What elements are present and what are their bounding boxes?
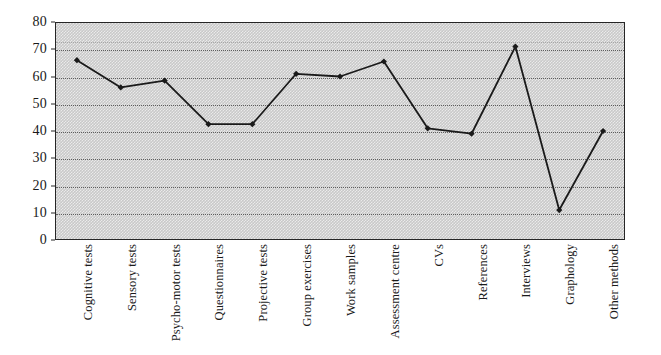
x-axis-tick-label: Psycho-motor tests (170, 244, 183, 341)
x-axis-tick-label: CVs (433, 244, 446, 267)
x-axis-tick-label-text: Work samples (345, 244, 358, 316)
y-axis-tick-label: 0 (40, 233, 47, 247)
line-chart: 01020304050607080 Cognitive testsSensory… (0, 0, 661, 355)
y-axis-tick-label: 50 (32, 97, 47, 111)
x-axis-tick-label: Work samples (345, 244, 358, 316)
x-axis-tick-label-text: Cognitive tests (82, 244, 95, 320)
data-point-marker (512, 43, 518, 49)
x-axis-tick-label: Projective tests (257, 244, 270, 322)
x-axis-tick-label: Other methods (608, 244, 621, 319)
x-axis-tick-label-text: Sensory tests (126, 244, 139, 311)
x-axis-tick-label: Cognitive tests (82, 244, 95, 320)
x-axis-tick-label: Assessment centre (389, 244, 402, 338)
y-axis-tick-label: 60 (32, 70, 47, 84)
x-axis-tick-label: Questionnaires (213, 244, 226, 320)
x-axis-tick-label: Graphology (564, 244, 577, 305)
y-axis-tick-label: 40 (32, 124, 47, 138)
y-axis-tick-label: 10 (32, 206, 47, 220)
y-axis-tick-label: 30 (32, 151, 47, 165)
x-axis-tick-label-text: CVs (433, 244, 446, 267)
x-axis-tick-label-text: Group exercises (301, 244, 314, 326)
x-axis-tick-label-text: Psycho-motor tests (170, 244, 183, 341)
x-axis-tick-label-text: Projective tests (257, 244, 270, 322)
x-axis-tick-label-text: Other methods (608, 244, 621, 319)
series-line (77, 47, 603, 211)
y-axis-tick-label: 70 (32, 42, 47, 56)
data-point-marker (337, 73, 343, 79)
x-axis: Cognitive testsSensory testsPsycho-motor… (55, 240, 625, 355)
y-axis-tick-label: 80 (32, 15, 47, 29)
data-series (55, 22, 625, 240)
x-axis-tick-label: Interviews (520, 244, 533, 298)
y-axis-tick-label: 20 (32, 179, 47, 193)
x-axis-tick-label: Sensory tests (126, 244, 139, 311)
y-axis: 01020304050607080 (0, 0, 55, 240)
x-axis-tick-label-text: Interviews (520, 244, 533, 298)
x-axis-tick-label-text: References (477, 244, 490, 301)
x-axis-tick-label-text: Graphology (564, 244, 577, 305)
x-axis-tick-label-text: Questionnaires (213, 244, 226, 320)
data-point-marker (468, 131, 474, 137)
x-axis-tick-label: References (477, 244, 490, 301)
x-axis-tick-label: Group exercises (301, 244, 314, 326)
x-axis-tick-label-text: Assessment centre (389, 244, 402, 338)
